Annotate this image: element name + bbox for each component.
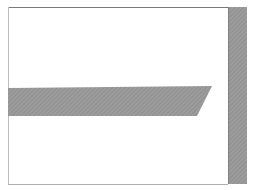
cross-section-diagram: [0, 0, 253, 190]
hatched-horizontal-bar: [8, 86, 212, 116]
hatched-vertical-column: [228, 7, 247, 184]
